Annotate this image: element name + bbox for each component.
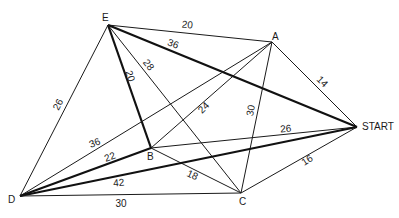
edge-weight-label: 30 bbox=[244, 104, 257, 117]
edge-weight-label: 18 bbox=[185, 167, 200, 182]
vertex-label-c: C bbox=[239, 196, 246, 207]
vertex-label-b: B bbox=[147, 151, 154, 162]
edge-weight-label: 28 bbox=[141, 57, 157, 73]
vertex-label-a: A bbox=[272, 31, 279, 42]
edge-b-d bbox=[20, 148, 151, 196]
vertex-label-d: D bbox=[8, 194, 15, 205]
vertex-label-start: START bbox=[362, 121, 394, 132]
edge-weight-label: 16 bbox=[299, 152, 315, 168]
edge-weight-label: 26 bbox=[50, 97, 65, 112]
edge-weight-label: 20 bbox=[181, 18, 194, 30]
edge-d-c bbox=[20, 193, 241, 196]
edge-weight-label: 42 bbox=[113, 177, 125, 189]
weighted-graph-diagram: 203620282614302436261822423016 EASTARTBD… bbox=[0, 0, 399, 218]
edge-weight-label: 30 bbox=[115, 198, 127, 209]
edge-weight-label: 20 bbox=[123, 69, 137, 83]
edge-e-c bbox=[108, 25, 241, 193]
vertex-label-e: E bbox=[102, 12, 109, 23]
edge-e-d bbox=[20, 25, 108, 196]
edge-weight-label: 24 bbox=[196, 99, 212, 115]
edge-a-start bbox=[272, 42, 357, 127]
edge-weight-label: 36 bbox=[87, 135, 102, 150]
graph-svg: 203620282614302436261822423016 EASTARTBD… bbox=[0, 0, 399, 218]
edge-weight-label: 26 bbox=[280, 123, 292, 135]
